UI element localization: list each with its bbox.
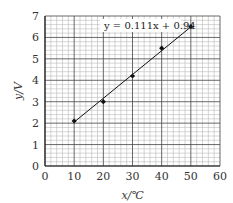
equation-annotation: y = 0.111x + 0.94: [100, 19, 196, 32]
y-tick-label: 7: [32, 10, 39, 23]
chart: 010203040506001234567 y = 0.111x + 0.94 …: [0, 0, 233, 203]
major-grid: [45, 16, 220, 166]
data-point: [159, 46, 164, 51]
x-axis-label: x/℃: [121, 189, 144, 202]
y-tick-label: 5: [32, 53, 39, 66]
y-tick-label: 1: [32, 139, 39, 152]
x-tick-label: 40: [155, 170, 169, 183]
x-tick-label: 0: [42, 170, 49, 183]
equation-label: y = 0.111x + 0.94: [103, 20, 196, 31]
data-point: [130, 73, 135, 78]
y-tick-label: 0: [32, 160, 39, 173]
y-axis-label: y/V: [12, 81, 25, 101]
y-tick-label: 2: [32, 117, 39, 130]
y-tick-label: 3: [32, 96, 39, 109]
tick-labels: 010203040506001234567: [32, 10, 227, 183]
y-tick-label: 6: [32, 31, 39, 44]
x-tick-label: 10: [67, 170, 81, 183]
x-tick-label: 60: [213, 170, 227, 183]
x-tick-label: 20: [96, 170, 110, 183]
x-tick-label: 50: [184, 170, 198, 183]
y-tick-label: 4: [32, 74, 39, 87]
x-tick-label: 30: [126, 170, 140, 183]
